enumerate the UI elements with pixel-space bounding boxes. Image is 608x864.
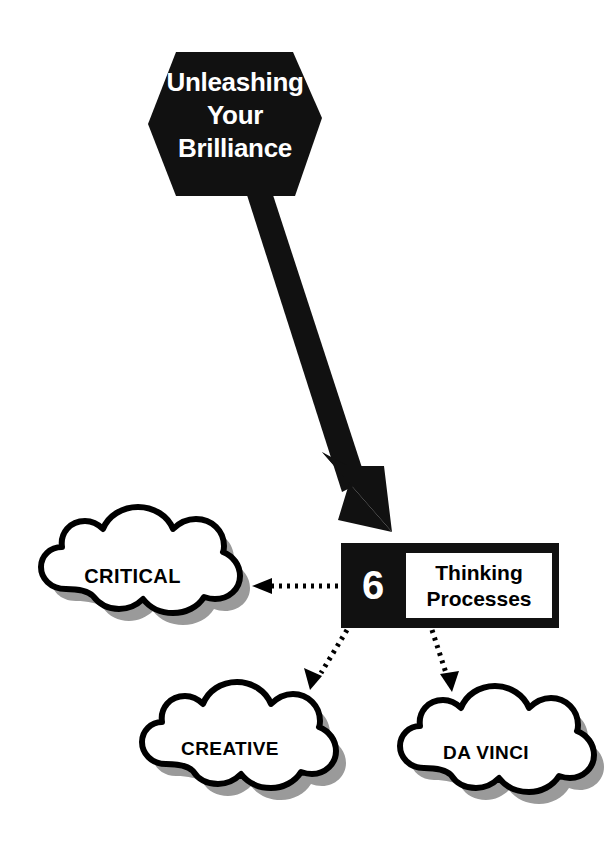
- thick-down-right-arrow: [246, 192, 392, 532]
- process-box-label: Thinking Processes: [406, 560, 552, 613]
- diagram-canvas: Unleashing Your Brilliance 6 Thinking Pr…: [0, 0, 608, 864]
- hexagon-banner: [148, 52, 322, 196]
- dotted-arrow-down-right: [432, 630, 459, 692]
- dotted-arrow-left: [252, 578, 338, 594]
- process-count: 6: [343, 556, 403, 614]
- process-label-line-1: Thinking: [406, 560, 552, 586]
- diagram-graphics: [0, 0, 608, 864]
- process-label-line-2: Processes: [406, 586, 552, 612]
- dotted-arrow-down-left: [304, 630, 347, 690]
